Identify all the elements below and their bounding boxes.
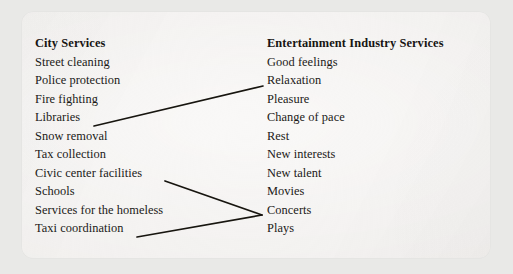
figure-card: City Services Street cleaning Police pro… [22,12,490,258]
list-item: Concerts [267,201,444,220]
list-item: Fire fighting [35,90,163,109]
list-item: Tax collection [35,145,163,164]
entertainment-services-list: Good feelings Relaxation Pleasure Change… [267,53,444,238]
city-services-list: Street cleaning Police protection Fire f… [35,53,163,238]
list-item: New interests [267,145,444,164]
list-item: Police protection [35,71,163,90]
list-item: Services for the homeless [35,201,163,220]
list-item: Pleasure [267,90,444,109]
list-item: Change of pace [267,108,444,127]
list-item: Civic center facilities [35,164,163,183]
list-item: Relaxation [267,71,444,90]
column-city-services: City Services Street cleaning Police pro… [35,34,163,238]
list-item: Plays [267,219,444,238]
list-item: Street cleaning [35,53,163,72]
list-item: Taxi coordination [35,219,163,238]
list-item: Snow removal [35,127,163,146]
column-entertainment-industry-services: Entertainment Industry Services Good fee… [267,34,444,238]
column-header-city-services: City Services [35,34,163,53]
column-header-entertainment-industry-services: Entertainment Industry Services [267,34,444,53]
list-item: Libraries [35,108,163,127]
list-item: Schools [35,182,163,201]
list-item: New talent [267,164,444,183]
list-item: Rest [267,127,444,146]
list-item: Movies [267,182,444,201]
list-item: Good feelings [267,53,444,72]
